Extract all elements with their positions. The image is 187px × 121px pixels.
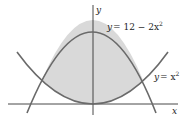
x-axis-label: x: [172, 106, 177, 116]
y-axis-label: y: [95, 5, 102, 15]
area-between-curves-diagram: y x y= 12 − 2x2 y= x2: [0, 0, 187, 121]
upper-curve-label: y= 12 − 2x2: [106, 20, 163, 32]
lower-curve-label: y= x2: [153, 70, 180, 82]
